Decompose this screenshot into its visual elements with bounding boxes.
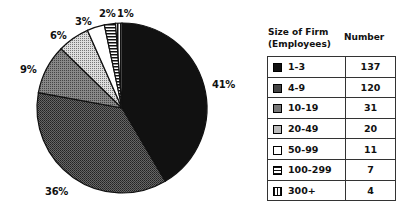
swatch-horizontal-stripes: [273, 166, 282, 175]
pct-label-4-9: 36%: [45, 186, 68, 197]
pct-label-50-99: 3%: [75, 16, 91, 27]
pct-label-20-49: 6%: [50, 30, 66, 41]
legend-table: 1-3137 4-9120 10-1931 20-4920 50-9911 10…: [267, 56, 396, 201]
swatch-white: [273, 146, 282, 155]
swatch-solid-black: [273, 63, 282, 72]
legend-row: 50-9911: [268, 139, 396, 160]
legend-row: 4-9120: [268, 77, 396, 98]
legend-row: 300+4: [268, 180, 396, 201]
swatch-light-dots: [273, 125, 282, 134]
pie-chart: [0, 0, 260, 201]
pct-label-1-3: 41%: [212, 79, 235, 90]
pct-label-10-19: 9%: [20, 64, 36, 75]
pct-label-100-299: 2%: [99, 8, 115, 19]
legend-row: 10-1931: [268, 98, 396, 119]
legend-header-number: Number: [344, 31, 384, 43]
swatch-vertical-stripes: [273, 187, 282, 196]
swatch-dark-dots: [273, 84, 282, 93]
pct-label-300-plus: 1%: [117, 8, 133, 19]
legend-row: 20-4920: [268, 118, 396, 139]
swatch-medium-dots: [273, 104, 282, 113]
legend-row: 100-2997: [268, 159, 396, 180]
legend-header-size: Size of Firm (Employees): [268, 26, 331, 50]
legend-row: 1-3137: [268, 57, 396, 78]
